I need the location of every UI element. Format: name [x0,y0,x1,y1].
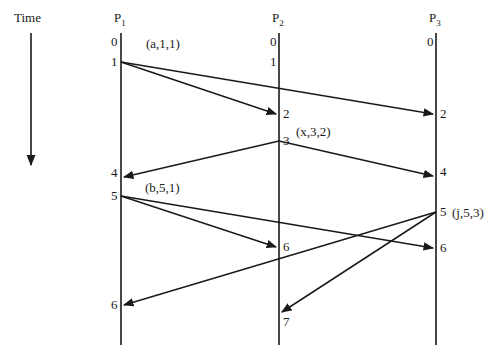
event-tuple: (x,3,2) [296,124,331,139]
event-tuple: (b,5,1) [145,180,180,195]
event-counter: 6 [283,239,290,254]
message-arrow [279,141,433,176]
event-tuple: (j,5,3) [452,205,484,220]
event-counter: 3 [283,133,290,148]
message-arrow [121,196,276,247]
event-counter: 2 [283,106,290,121]
process-label: P2 [272,10,284,28]
event-counter: 6 [111,297,118,312]
event-tuple: (a,1,1) [146,36,180,51]
event-counter: 1 [270,54,277,69]
event-counter: 5 [440,204,447,219]
event-counter: 0 [111,34,118,49]
message-arrow [121,196,433,248]
process-p2: P2012367 [270,10,290,345]
event-counter: 1 [111,54,118,69]
event-counter: 6 [440,240,447,255]
message-arrow [124,212,436,305]
event-counter: 2 [440,106,447,121]
process-label: P1 [114,10,126,28]
process-lines: P101456P2012367P302456 [111,10,447,345]
event-counter: 5 [111,188,118,203]
time-axis: Time [14,10,41,165]
event-counter: 7 [283,314,290,329]
process-label: P3 [429,10,441,28]
message-arrow [124,141,279,177]
event-counter: 4 [440,164,447,179]
space-time-diagram: Time P101456P2012367P302456 (a,1,1)(x,3,… [0,0,497,357]
process-p3: P302456 [427,10,447,345]
event-labels: (a,1,1)(x,3,2)(b,5,1)(j,5,3) [145,36,484,220]
event-counter: 0 [270,34,277,49]
message-arrow [121,62,276,114]
process-p1: P101456 [111,10,126,345]
event-counter: 0 [427,34,434,49]
event-counter: 4 [111,165,118,180]
message-arrow [121,62,433,114]
time-label: Time [14,10,41,25]
